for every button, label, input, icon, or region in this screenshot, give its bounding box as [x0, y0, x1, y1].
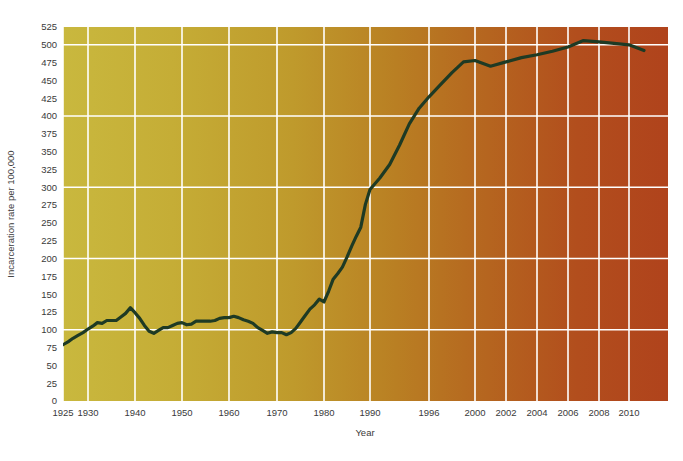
- x-tick-label-2010: 2010: [618, 407, 639, 418]
- incarceration-rate-line-chart: 0255075100125150175200225250275300325350…: [0, 0, 683, 461]
- y-tick-label-325: 325: [41, 164, 57, 175]
- y-tick-label-300: 300: [41, 182, 57, 193]
- y-tick-label-0: 0: [52, 395, 57, 406]
- x-tick-label-1996: 1996: [418, 407, 439, 418]
- y-tick-label-275: 275: [41, 199, 57, 210]
- y-tick-label-375: 375: [41, 128, 57, 139]
- y-tick-label-225: 225: [41, 235, 57, 246]
- y-tick-label-75: 75: [46, 342, 57, 353]
- x-tick-label-2004: 2004: [526, 407, 547, 418]
- y-tick-label-150: 150: [41, 289, 57, 300]
- x-tick-label-1940: 1940: [124, 407, 145, 418]
- y-tick-label-425: 425: [41, 93, 57, 104]
- x-tick-label-2008: 2008: [588, 407, 609, 418]
- x-tick-label-1925: 1925: [52, 407, 73, 418]
- y-tick-label-500: 500: [41, 39, 57, 50]
- y-tick-label-200: 200: [41, 253, 57, 264]
- x-axis-title: Year: [355, 427, 374, 438]
- x-tick-label-2000: 2000: [464, 407, 485, 418]
- x-tick-label-1970: 1970: [266, 407, 287, 418]
- y-tick-label-475: 475: [41, 57, 57, 68]
- chart-container: 0255075100125150175200225250275300325350…: [0, 0, 683, 461]
- y-tick-label-175: 175: [41, 271, 57, 282]
- x-tick-label-2002: 2002: [495, 407, 516, 418]
- y-tick-label-350: 350: [41, 146, 57, 157]
- x-tick-label-1960: 1960: [218, 407, 239, 418]
- x-tick-label-1980: 1980: [313, 407, 334, 418]
- x-tick-label-1990: 1990: [359, 407, 380, 418]
- plot-area-background: [63, 27, 668, 401]
- y-axis-title: Incarceration rate per 100,000: [5, 150, 16, 277]
- x-tick-label-1930: 1930: [77, 407, 98, 418]
- y-tick-label-525: 525: [41, 21, 57, 32]
- y-tick-label-400: 400: [41, 110, 57, 121]
- y-tick-label-25: 25: [46, 378, 57, 389]
- x-tick-label-1950: 1950: [171, 407, 192, 418]
- y-tick-label-450: 450: [41, 75, 57, 86]
- x-tick-label-2006: 2006: [557, 407, 578, 418]
- y-tick-label-250: 250: [41, 217, 57, 228]
- y-tick-label-50: 50: [46, 360, 57, 371]
- y-tick-label-125: 125: [41, 306, 57, 317]
- y-tick-label-100: 100: [41, 324, 57, 335]
